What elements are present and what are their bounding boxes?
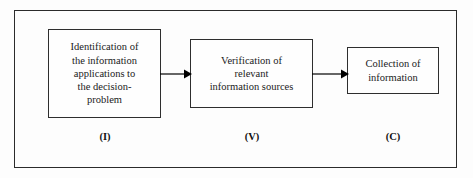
diagram-canvas: Identification of the information applic… [0,0,473,178]
process-box-collection[interactable]: Collection of information [347,47,439,94]
process-box-identification-label: Identification of the information applic… [67,40,143,106]
process-box-verification-label: Verification of relevant information sou… [206,54,298,94]
stage-caption-collection: (C) [373,131,413,142]
arrow-verification-to-collection [312,67,349,81]
process-box-identification[interactable]: Identification of the information applic… [48,29,161,118]
arrow-identification-to-verification [160,67,192,81]
process-box-verification[interactable]: Verification of relevant information sou… [190,39,313,108]
process-box-collection-label: Collection of information [361,57,424,83]
stage-caption-identification: (I) [85,131,125,142]
stage-caption-verification: (V) [232,131,272,142]
outer-frame: Identification of the information applic… [14,10,457,168]
